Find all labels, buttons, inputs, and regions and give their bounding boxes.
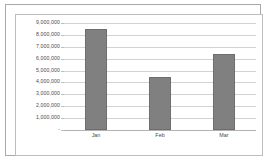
x-tick-label: Feb <box>155 133 164 138</box>
gridline <box>64 130 256 131</box>
y-tick-label: 6,000,000 <box>36 56 60 61</box>
y-tick-label: 3,000,000 <box>36 92 60 97</box>
x-tick-label: Jan <box>92 133 101 138</box>
bar <box>213 54 235 130</box>
y-tick-label: 1,000,000 <box>36 116 60 121</box>
bars <box>64 23 256 130</box>
y-tick-label: 7,000,000 <box>36 44 60 49</box>
x-axis: JanFebMar <box>64 133 256 145</box>
y-tick-label: 8,000,000 <box>36 32 60 37</box>
y-tick-label: 9,000,000 <box>36 20 60 25</box>
y-tick-label: 2,000,000 <box>36 104 60 109</box>
y-tick-label: 5,000,000 <box>36 68 60 73</box>
bar <box>85 29 107 130</box>
chart-screenshot: -1,000,0002,000,0003,000,0004,000,0005,0… <box>0 0 266 168</box>
x-tick-label: Mar <box>219 133 228 138</box>
y-tick-label: 4,000,000 <box>36 80 60 85</box>
plot-area <box>64 23 256 130</box>
y-tickmark <box>61 130 64 131</box>
chart-frame: -1,000,0002,000,0003,000,0004,000,0005,0… <box>15 14 263 156</box>
bar <box>149 77 171 131</box>
y-tick-label: - <box>58 127 60 132</box>
outer-frame: -1,000,0002,000,0003,000,0004,000,0005,0… <box>5 4 261 156</box>
bar-chart: -1,000,0002,000,0003,000,0004,000,0005,0… <box>16 15 262 155</box>
y-axis: -1,000,0002,000,0003,000,0004,000,0005,0… <box>16 15 64 155</box>
